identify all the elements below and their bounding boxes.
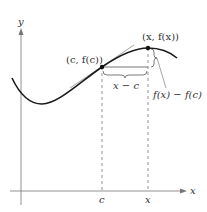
point-c — [100, 65, 104, 69]
label-x-minus-c: x − c — [113, 80, 139, 91]
point-x — [146, 46, 150, 50]
tick-label-x: x — [145, 194, 151, 205]
y-axis-arrow-icon — [19, 28, 24, 35]
y-axis-label: y — [17, 16, 24, 27]
axes: x y — [10, 16, 196, 205]
x-axis-label: x — [190, 185, 196, 196]
vertical-brace-leader — [157, 58, 166, 88]
tick-label-c: c — [99, 194, 105, 205]
vertical-brace — [151, 49, 157, 67]
x-axis-arrow-icon — [180, 189, 187, 194]
label-x-fx: (x, f(x)) — [142, 31, 179, 42]
horizontal-brace — [103, 71, 147, 78]
label-fx-minus-fc: f(x) − f(c) — [152, 89, 202, 100]
label-c-fc: (c, f(c)) — [66, 54, 103, 65]
diagram-figure: x y c x x − c f(x) − f(c) (c, f(c)) (x, … — [0, 0, 207, 212]
